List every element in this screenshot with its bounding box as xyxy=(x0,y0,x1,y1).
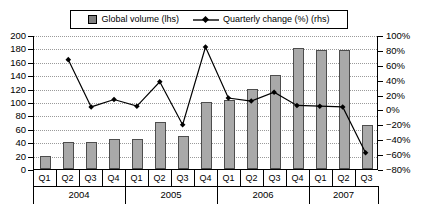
line-marker xyxy=(248,98,254,104)
right-axis-label: −60% xyxy=(386,150,411,160)
line-marker xyxy=(317,103,323,109)
left-axis-label: 40 xyxy=(0,138,26,148)
legend-item-global-volume: Global volume (lhs) xyxy=(88,15,179,24)
x-axis-year-separator xyxy=(378,186,379,204)
chart-root: Global volume (lhs) Quarterly change (%)… xyxy=(0,0,429,224)
x-axis-quarter-separator xyxy=(240,170,241,186)
x-axis-quarter-separator xyxy=(148,170,149,186)
diamond-line-marker-icon xyxy=(193,16,219,23)
right-axis-tick xyxy=(378,155,383,156)
left-axis-tick xyxy=(28,130,33,131)
x-axis-quarter-label: Q4 xyxy=(194,170,217,186)
left-axis-tick xyxy=(28,76,33,77)
x-axis-quarter-separator xyxy=(56,170,57,186)
left-axis-tick xyxy=(28,90,33,91)
x-axis-quarter-separator xyxy=(102,170,103,186)
left-axis-label: 80 xyxy=(0,111,26,121)
right-axis-tick xyxy=(378,110,383,111)
left-axis-label: 200 xyxy=(0,31,26,41)
x-axis-quarter-label: Q3 xyxy=(171,170,194,186)
right-axis-ticks xyxy=(378,36,383,170)
x-axis-years: 2004200520062007 xyxy=(33,186,378,204)
x-axis-quarter-separator xyxy=(286,170,287,186)
left-axis-label: 0 xyxy=(0,165,26,175)
x-axis-year-label: 2004 xyxy=(33,186,125,204)
left-axis-label: 20 xyxy=(0,152,26,162)
x-axis-quarter-label: Q3 xyxy=(355,170,378,186)
x-axis-quarter-label: Q1 xyxy=(33,170,56,186)
right-axis-label: 20% xyxy=(386,91,405,101)
x-axis-quarter-label: Q4 xyxy=(286,170,309,186)
left-axis-label: 60 xyxy=(0,125,26,135)
left-axis-ticks xyxy=(28,36,33,170)
line-marker xyxy=(363,150,369,156)
chart-legend: Global volume (lhs) Quarterly change (%)… xyxy=(70,10,348,29)
x-axis-quarter-label: Q1 xyxy=(125,170,148,186)
x-axis-year-separator xyxy=(125,186,126,204)
line-marker xyxy=(294,103,300,109)
right-axis-label: 100% xyxy=(386,31,410,41)
x-axis-quarters: Q1Q2Q3Q4Q1Q2Q3Q4Q1Q2Q3Q4Q1Q2Q3 xyxy=(33,170,378,186)
square-marker-icon xyxy=(88,15,97,24)
x-axis-quarter-separator xyxy=(171,170,172,186)
x-axis-year-tick xyxy=(125,170,126,186)
right-axis-label: −20% xyxy=(386,120,411,130)
x-axis-quarter-label: Q1 xyxy=(309,170,332,186)
x-axis-year-tick xyxy=(217,170,218,186)
legend-label-quarterly-change: Quarterly change (%) (rhs) xyxy=(223,15,330,24)
line-marker xyxy=(226,95,232,101)
x-axis-quarter-separator xyxy=(263,170,264,186)
right-axis-label: 40% xyxy=(386,76,405,86)
x-axis-quarter-label: Q2 xyxy=(148,170,171,186)
right-axis-label: 60% xyxy=(386,61,405,71)
left-axis-tick xyxy=(28,103,33,104)
legend-item-quarterly-change: Quarterly change (%) (rhs) xyxy=(193,15,330,24)
x-axis-year-label: 2005 xyxy=(125,186,217,204)
right-axis-tick xyxy=(378,66,383,67)
right-axis-label: 0% xyxy=(386,105,400,115)
left-axis-label: 120 xyxy=(0,85,26,95)
right-axis-tick xyxy=(378,81,383,82)
x-axis-year-tick xyxy=(309,170,310,186)
line-series xyxy=(34,36,377,169)
x-axis-quarter-separator xyxy=(194,170,195,186)
left-axis-tick xyxy=(28,63,33,64)
left-axis-label: 160 xyxy=(0,58,26,68)
x-axis-quarter-label: Q2 xyxy=(332,170,355,186)
left-axis-label: 180 xyxy=(0,44,26,54)
x-axis-year-label: 2007 xyxy=(309,186,378,204)
line-marker xyxy=(203,44,209,50)
right-axis-label: −40% xyxy=(386,135,411,145)
x-axis-quarter-label: Q3 xyxy=(79,170,102,186)
right-axis-tick xyxy=(378,96,383,97)
x-axis-quarter-separator xyxy=(355,170,356,186)
line-marker xyxy=(180,122,186,128)
line-marker xyxy=(340,104,346,110)
x-axis-quarter-separator xyxy=(332,170,333,186)
left-axis-tick xyxy=(28,49,33,50)
x-axis-year-separator xyxy=(309,186,310,204)
left-axis-tick xyxy=(28,143,33,144)
right-axis-tick xyxy=(378,140,383,141)
left-axis-tick xyxy=(28,157,33,158)
right-axis-tick xyxy=(378,51,383,52)
left-axis-tick xyxy=(28,116,33,117)
right-axis-tick xyxy=(378,125,383,126)
plot-area xyxy=(33,36,378,170)
x-axis-quarter-label: Q3 xyxy=(263,170,286,186)
left-axis-tick xyxy=(28,36,33,37)
x-axis-year-tick xyxy=(33,170,34,186)
x-axis-year-separator xyxy=(217,186,218,204)
left-axis-label: 100 xyxy=(0,98,26,108)
x-axis-quarter-label: Q1 xyxy=(217,170,240,186)
line-marker xyxy=(66,57,72,63)
x-axis-quarter-label: Q2 xyxy=(240,170,263,186)
line-marker xyxy=(271,89,277,95)
x-axis-year-separator xyxy=(33,186,34,204)
x-axis-quarter-separator xyxy=(79,170,80,186)
x-axis-quarter-label: Q4 xyxy=(102,170,125,186)
line-marker xyxy=(88,104,94,110)
x-axis-year-label: 2006 xyxy=(217,186,309,204)
legend-label-global-volume: Global volume (lhs) xyxy=(101,15,179,24)
left-axis-label: 140 xyxy=(0,71,26,81)
